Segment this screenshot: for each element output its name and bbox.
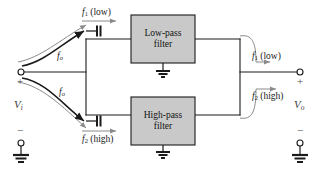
output-load-subscript: o — [301, 103, 305, 112]
source-signal-fo-bottom-subscript: o — [62, 90, 65, 97]
input-signal-f2-paren: (high) — [88, 134, 114, 144]
ground-high-pass — [156, 145, 170, 158]
low-pass-filter-label: Low-pass filter — [131, 28, 195, 49]
source-signal-label-fo-bottom: fo — [59, 88, 65, 98]
output-polarity-minus: − — [297, 125, 303, 136]
ground-output — [292, 146, 308, 162]
output-polarity-plus: + — [297, 76, 303, 87]
output-signal-f1-paren: (low) — [258, 51, 281, 61]
input-source-label: Vi — [14, 99, 23, 111]
input-signal-label-f1: f1 (low) — [82, 8, 111, 18]
output-signal-f2-paren: (high) — [258, 91, 284, 101]
signal-curve-input-bottom-thin — [18, 82, 86, 128]
source-signal-fo-top-subscript: o — [60, 54, 63, 61]
coupling-cap-top — [86, 26, 101, 37]
ground-low-pass — [156, 63, 170, 77]
low-pass-filter-label-line2: filter — [131, 39, 195, 50]
input-terminal-negative — [18, 140, 24, 146]
ground-input — [13, 146, 29, 162]
coupling-cap-bottom — [86, 116, 101, 127]
output-load-symbol: V — [294, 98, 301, 110]
output-terminal-negative — [297, 140, 303, 146]
signal-curve-input-top-thick — [22, 31, 84, 66]
input-source-subscript: i — [21, 103, 23, 112]
signal-curve-input-top-thin — [18, 25, 86, 62]
high-pass-filter-label: High-pass filter — [131, 110, 195, 131]
input-signal-label-f2: f2 (high) — [82, 135, 113, 145]
output-signal-label-f2: f2 (high) — [252, 92, 283, 102]
source-signal-label-fo-top: fo — [57, 52, 63, 62]
circuit-diagram-root: Low-pass filter High-pass filter f1 (low… — [0, 0, 321, 175]
input-polarity-minus: − — [17, 125, 23, 136]
crossover-filter-schematic — [0, 0, 321, 175]
input-polarity-plus: + — [17, 76, 23, 87]
low-pass-filter-label-line1: Low-pass — [131, 28, 195, 39]
input-source-symbol: V — [14, 98, 21, 110]
output-signal-label-f1: f1 (low) — [252, 52, 281, 62]
output-load-label: Vo — [294, 99, 304, 111]
input-signal-f1-paren: (low) — [88, 7, 111, 17]
high-pass-filter-label-line2: filter — [131, 121, 195, 132]
high-pass-filter-label-line1: High-pass — [131, 110, 195, 121]
